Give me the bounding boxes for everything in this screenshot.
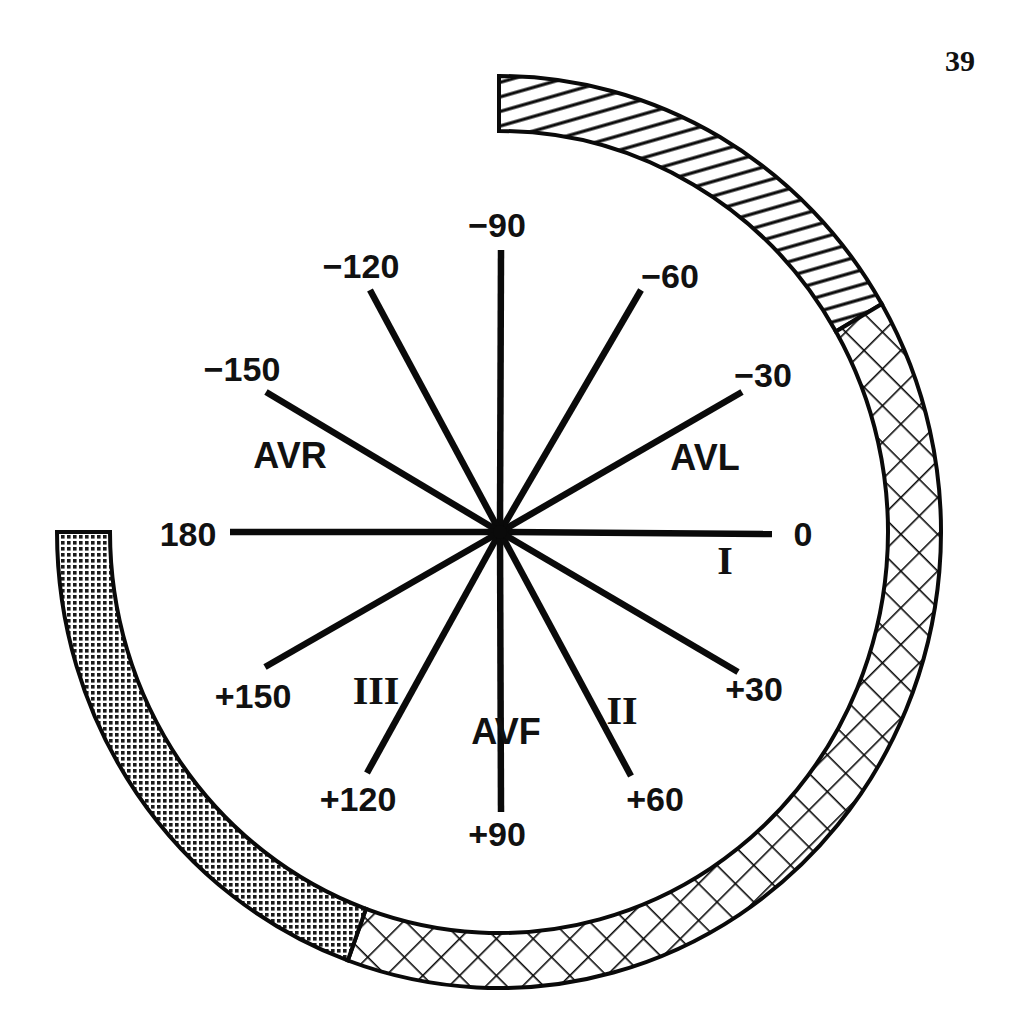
axis-label-0: 0	[794, 515, 813, 553]
axis-label-minus-30: −30	[734, 356, 792, 394]
right-axis-deviation-band	[57, 532, 366, 960]
lead-labels: AVRAVLAVFIIIIII	[253, 435, 739, 752]
axis-line-0	[500, 532, 772, 534]
lead-label-ii: II	[606, 688, 637, 733]
center-hub	[493, 525, 507, 539]
axis-label-minus-90: −90	[468, 206, 526, 244]
axis-line-minus-60	[500, 290, 641, 532]
axis-line-minus-90	[500, 250, 501, 532]
page-number: 39	[945, 44, 975, 77]
axis-line-90	[500, 532, 501, 812]
lead-label-avr: AVR	[253, 435, 326, 476]
axis-label-60: +60	[626, 780, 684, 818]
hexaxial-diagram: 0−30−60−90−120−150180+150+120+90+60+30 A…	[0, 0, 1024, 1036]
lead-label-avf: AVF	[471, 711, 540, 752]
lead-label-avl: AVL	[670, 437, 739, 478]
axis-label-minus-60: −60	[641, 257, 699, 295]
axis-label-150: +150	[215, 677, 292, 715]
lead-label-iii: III	[353, 668, 400, 713]
axis-label-90: +90	[468, 815, 526, 853]
axis-label-minus-120: −120	[323, 247, 400, 285]
axis-label-120: +120	[320, 780, 397, 818]
axis-label-minus-150: −150	[204, 350, 281, 388]
axis-label-30: +30	[725, 670, 783, 708]
lead-label-i: I	[717, 538, 733, 583]
axis-label-180: 180	[160, 515, 217, 553]
